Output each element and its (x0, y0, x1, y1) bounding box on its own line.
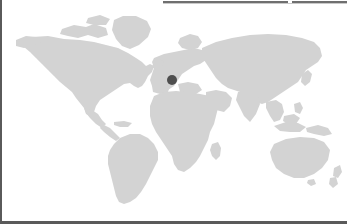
world-map-svg[interactable] (2, 4, 347, 221)
world-map-widget (0, 0, 347, 224)
bottom-border-divider (0, 221, 347, 224)
map-canvas[interactable] (2, 4, 347, 221)
selected-location-marker[interactable] (167, 75, 177, 85)
